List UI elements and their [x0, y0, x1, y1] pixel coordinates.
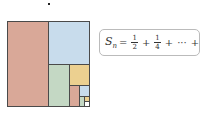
lhs: Sn — [105, 35, 117, 50]
rect-half — [7, 21, 49, 107]
ellipsis: ··· — [177, 37, 187, 48]
term-2: 14 — [154, 34, 160, 51]
marker-dot — [48, 3, 50, 5]
plus-sign: + — [142, 37, 150, 48]
equals-sign: = — [119, 37, 127, 48]
plus-sign: + — [191, 37, 199, 48]
sum-formula: Sn = 12 + 14 + ··· + 12ⁿ — [99, 29, 200, 56]
rect-remainder — [84, 101, 90, 107]
rect-eighth — [48, 64, 70, 107]
plus-sign: + — [165, 37, 173, 48]
rect-quarter — [48, 21, 90, 65]
rect-sixteenth — [69, 64, 90, 86]
term-1: 12 — [131, 34, 137, 51]
